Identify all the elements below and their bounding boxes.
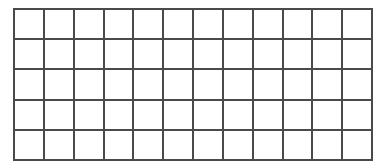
grid-cell-r2-c9 [254,40,284,70]
grid-cell-r2-c3 [75,40,105,70]
grid-cell-r1-c6 [164,10,194,40]
grid-cell-r5-c1 [15,131,45,161]
empty-grid [13,8,373,161]
grid-cell-r4-c10 [284,101,314,131]
grid-cell-r3-c6 [164,70,194,100]
grid-cell-r5-c10 [284,131,314,161]
grid-cell-r1-c12 [343,10,373,40]
grid-cell-r5-c12 [343,131,373,161]
grid-cell-r3-c10 [284,70,314,100]
grid-cell-r5-c4 [105,131,135,161]
grid-cell-r5-c7 [194,131,224,161]
grid-cell-r2-c7 [194,40,224,70]
grid-cell-r5-c9 [254,131,284,161]
grid-cell-r2-c1 [15,40,45,70]
grid-cell-r1-c7 [194,10,224,40]
grid-cell-r5-c6 [164,131,194,161]
grid-cell-r1-c2 [45,10,75,40]
grid-cell-r3-c4 [105,70,135,100]
grid-cell-r2-c6 [164,40,194,70]
grid-cell-r1-c4 [105,10,135,40]
grid-cell-r5-c2 [45,131,75,161]
grid-cell-r2-c5 [134,40,164,70]
grid-cell-r5-c3 [75,131,105,161]
grid-cell-r4-c9 [254,101,284,131]
grid-cell-r4-c1 [15,101,45,131]
grid-cell-r2-c10 [284,40,314,70]
grid-cell-r1-c3 [75,10,105,40]
grid-cell-r4-c12 [343,101,373,131]
grid-cell-r3-c1 [15,70,45,100]
grid-cell-r4-c6 [164,101,194,131]
grid-cell-r3-c2 [45,70,75,100]
grid-cell-r1-c1 [15,10,45,40]
grid-cell-r3-c3 [75,70,105,100]
grid-cell-r1-c9 [254,10,284,40]
grid-cell-r1-c10 [284,10,314,40]
grid-cell-r4-c11 [313,101,343,131]
grid-cell-r5-c11 [313,131,343,161]
grid-cell-r4-c5 [134,101,164,131]
grid-cell-r4-c8 [224,101,254,131]
grid-cell-r5-c8 [224,131,254,161]
grid-cell-r1-c8 [224,10,254,40]
grid-cell-r3-c12 [343,70,373,100]
grid-cell-r2-c8 [224,40,254,70]
grid-cell-r2-c12 [343,40,373,70]
grid-cell-r4-c2 [45,101,75,131]
grid-cell-r4-c4 [105,101,135,131]
grid-cell-r1-c11 [313,10,343,40]
grid-cell-r4-c3 [75,101,105,131]
grid-cell-r3-c7 [194,70,224,100]
grid-cell-r2-c11 [313,40,343,70]
grid-cell-r3-c8 [224,70,254,100]
grid-cell-r1-c5 [134,10,164,40]
grid-cell-r2-c2 [45,40,75,70]
grid-cell-r3-c5 [134,70,164,100]
grid-cell-r2-c4 [105,40,135,70]
grid-cell-r5-c5 [134,131,164,161]
grid-cell-r3-c9 [254,70,284,100]
grid-cell-r3-c11 [313,70,343,100]
grid-cell-r4-c7 [194,101,224,131]
